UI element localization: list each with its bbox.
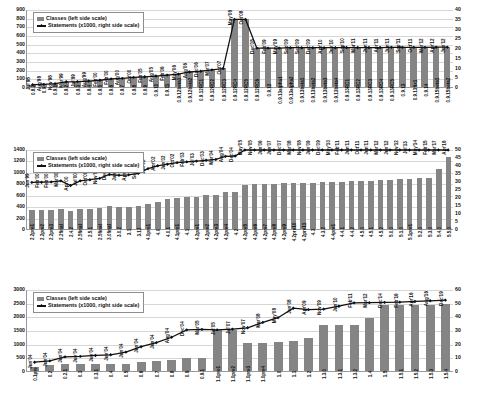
x-axis-tick-label: 0.9.12RC6 (256, 79, 261, 101)
version-label-cell: 0.3 (72, 372, 87, 404)
y-axis-tick-right: 35 (455, 171, 461, 176)
y-axis-tick-right: 60 (455, 287, 461, 292)
version-labels: 0.8.20.90.9.10.9.20.9.30.9.40.9.50.9.60.… (26, 88, 453, 122)
bar-slot (392, 290, 407, 371)
legend-label-statements: Statements (x1000, right side scale) (48, 22, 139, 29)
x-axis-tick-label: 0.7 (156, 371, 161, 377)
x-axis-tick-label: 0.9.13RC1 (346, 79, 351, 101)
bar (155, 202, 161, 229)
bar-slot (221, 150, 231, 229)
x-axis-tick-label: 0.9.12RC3 (223, 79, 228, 101)
version-label-cell: 0.9.12RC1 (195, 88, 206, 122)
version-label-cell: 1.5.1 (392, 372, 407, 404)
bar (368, 181, 374, 229)
bar (126, 207, 132, 229)
bar-slot (352, 10, 363, 87)
version-label-cell: 0.2.1 (57, 372, 72, 404)
bar (265, 48, 271, 87)
version-label-cell: 4.2pre3 (210, 230, 220, 264)
version-labels: 2.2pre12.2pre22.2pre32.2final2.4.22.5fin… (26, 230, 453, 264)
version-label-cell: 5.1pre1 (404, 230, 414, 264)
bar-slot (230, 150, 240, 229)
version-label-cell: 0.9.13beta4 (329, 88, 340, 122)
version-label-cell: 0.9.8 (127, 88, 138, 122)
bar-slot (240, 10, 251, 87)
bar (349, 181, 355, 229)
legend-item-classes: Classes (left side scale) (37, 295, 139, 302)
y-axis-tick-right: 0 (455, 369, 458, 374)
version-label-cell: 5.1.0 (395, 230, 405, 264)
bar (397, 179, 403, 229)
x-axis-tick-label: 1.0pre1 (217, 366, 222, 382)
bar-slot (298, 150, 308, 229)
bar (252, 184, 258, 229)
x-axis-tick-label: 0.9.15beta2 (447, 78, 452, 103)
bar (184, 197, 190, 229)
line-marker-icon (37, 23, 46, 28)
x-axis-tick-label: 0.9.12RC5 (245, 79, 250, 101)
y-axis-tick-right: 40 (455, 315, 461, 320)
bar-slot (337, 150, 347, 229)
bar (446, 157, 452, 229)
x-axis-tick-label: 1.1 (293, 371, 298, 377)
y-axis-tick-right: 50 (455, 301, 461, 306)
legend-item-statements: Statements (x1000, right side scale) (37, 22, 139, 29)
bar (213, 330, 222, 371)
y-axis-tick-right: 50 (455, 147, 461, 152)
bar-slot (347, 290, 362, 371)
version-label-cell: 0.9.13RC3 (363, 88, 374, 122)
bar-slot (211, 150, 221, 229)
x-axis-tick-label: 0.9.12 (268, 84, 273, 97)
bar-slot (201, 150, 211, 229)
x-axis-tick-label: 0.9.3 (77, 85, 82, 95)
version-label-cell: 0.9.5 (93, 88, 104, 122)
bar (242, 19, 248, 87)
version-label-cell: 1.0pre3 (240, 372, 255, 404)
y-axis-tick-left: 1500 (13, 328, 25, 333)
x-axis-tick-label: 0.9 (43, 87, 48, 93)
bar-slot (150, 10, 161, 87)
legend-label-classes: Classes (left side scale) (46, 155, 107, 162)
version-label-cell: 5.3.0 (424, 230, 434, 264)
version-label-cell: 0.9.13 (397, 88, 408, 122)
bar-slot (363, 10, 374, 87)
y-axis-tick-left: 1400 (13, 147, 25, 152)
bar-slot (210, 290, 225, 371)
x-axis-tick-label: 0.5 (125, 371, 130, 377)
bar-slot (329, 10, 340, 87)
x-axis-tick-label: 0.9.13RC3 (369, 79, 374, 101)
bar (329, 182, 335, 229)
bar-slot (179, 290, 194, 371)
version-label-cell: 1.0pre4 (255, 372, 270, 404)
bar (358, 181, 364, 229)
version-label-cell: 4.2pre4 (220, 230, 230, 264)
version-label-cell: 0.9.12RC5 (239, 88, 250, 122)
bar (387, 180, 393, 229)
bar (242, 185, 248, 229)
y-axis-tick-right: 25 (455, 37, 461, 42)
version-label-cell: 3.12 (133, 230, 143, 264)
legend-label-classes: Classes (left side scale) (46, 15, 107, 22)
bar (137, 362, 146, 371)
version-label-cell: 1.5.4 (438, 372, 453, 404)
bar (426, 178, 432, 229)
x-axis-tick-label: 0.9.10 (155, 84, 160, 97)
x-axis-tick-label: 0.3 (79, 371, 84, 377)
x-axis-tick-label: 1.0pre3 (247, 366, 252, 382)
x-axis-tick-label: 0.9.13 (402, 84, 407, 97)
x-axis-tick-label: 0.9.6 (110, 85, 115, 95)
bar-slot (347, 150, 357, 229)
x-axis-tick-label: 1.5.4 (445, 369, 450, 379)
chart-legend: Classes (left side scale)Statements (x10… (33, 152, 144, 173)
version-label-cell: 2.5.1 (84, 230, 94, 264)
x-axis-tick-label: 1.5 (384, 371, 389, 377)
version-label-cell: 1.5.2 (407, 372, 422, 404)
y-axis-tick-right: 40 (455, 163, 461, 168)
version-label-cell: 1.5 (377, 372, 392, 404)
y-axis-tick-left: 500 (16, 356, 25, 361)
version-label-cell: 4.3 (307, 230, 317, 264)
version-label-cell: 0.9.12beta2 (183, 88, 194, 122)
bar-slot (397, 10, 408, 87)
version-label-cell: 0.9.3 (71, 88, 82, 122)
x-axis-tick-label: 0.9.13alpha2 (290, 76, 295, 103)
